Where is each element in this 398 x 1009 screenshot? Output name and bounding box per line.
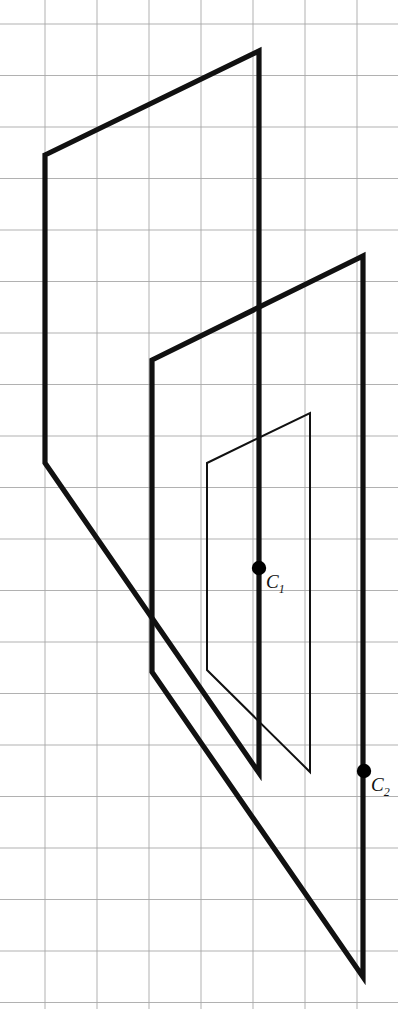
grid-layer xyxy=(0,0,398,1009)
center-point-c1-label-base: C xyxy=(266,571,279,592)
figure-svg xyxy=(0,0,398,1009)
center-point-c1-label: C1 xyxy=(266,572,285,595)
center-point-c2-label: C2 xyxy=(371,775,390,798)
shape-layer xyxy=(45,51,363,977)
center-point-c2-label-base: C xyxy=(371,774,384,795)
center-point-c1-label-subscript: 1 xyxy=(279,582,285,596)
diagram-canvas: C1C2 xyxy=(0,0,398,1009)
center-point-c2-label-subscript: 2 xyxy=(384,785,390,799)
center-point-c2 xyxy=(357,764,371,778)
center-point-c1 xyxy=(252,561,266,575)
